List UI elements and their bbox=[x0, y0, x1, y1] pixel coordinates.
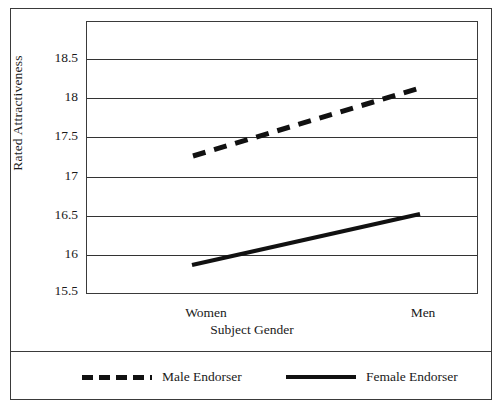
series-line-male-endorser bbox=[193, 88, 420, 156]
series-line-female-endorser bbox=[192, 214, 420, 265]
legend-label-male-endorser: Male Endorser bbox=[162, 369, 242, 385]
x-tick-label-women: Women bbox=[185, 305, 227, 321]
x-tick-label-men: Men bbox=[411, 305, 436, 321]
legend-entry-female-endorser: Female Endorser bbox=[286, 369, 458, 385]
legend: Male Endorser Female Endorser bbox=[10, 351, 492, 400]
figure-container: 18.5 18 17.5 17 16.5 16 15.5 Women Men S… bbox=[0, 0, 504, 409]
data-lines-layer bbox=[0, 0, 504, 409]
y-axis-title: Rated Attractiveness bbox=[10, 33, 26, 193]
legend-label-female-endorser: Female Endorser bbox=[366, 369, 458, 385]
legend-swatch-dashed-icon bbox=[82, 375, 152, 380]
x-axis-title: Subject Gender bbox=[0, 322, 504, 338]
legend-swatch-solid-icon bbox=[286, 375, 356, 379]
legend-entry-male-endorser: Male Endorser bbox=[82, 369, 242, 385]
